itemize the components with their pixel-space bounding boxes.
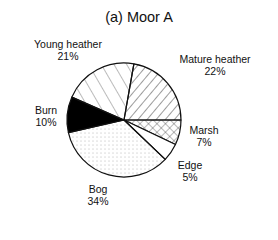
label-marsh: Marsh 7% bbox=[182, 124, 226, 148]
label-value: 22% bbox=[165, 65, 265, 77]
label-edge: Edge 5% bbox=[170, 159, 210, 183]
label-value: 10% bbox=[20, 116, 72, 128]
label-burn: Burn 10% bbox=[20, 104, 72, 128]
label-name: Burn bbox=[20, 104, 72, 116]
label-young-heather: Young heather 21% bbox=[18, 38, 118, 62]
label-name: Mature heather bbox=[165, 53, 265, 65]
label-mature-heather: Mature heather 22% bbox=[165, 53, 265, 77]
label-bog: Bog 34% bbox=[78, 183, 118, 207]
label-name: Edge bbox=[170, 159, 210, 171]
label-value: 34% bbox=[78, 195, 118, 207]
label-name: Young heather bbox=[18, 38, 118, 50]
label-value: 21% bbox=[18, 50, 118, 62]
label-name: Bog bbox=[78, 183, 118, 195]
label-name: Marsh bbox=[182, 124, 226, 136]
label-value: 5% bbox=[170, 171, 210, 183]
label-value: 7% bbox=[182, 136, 226, 148]
